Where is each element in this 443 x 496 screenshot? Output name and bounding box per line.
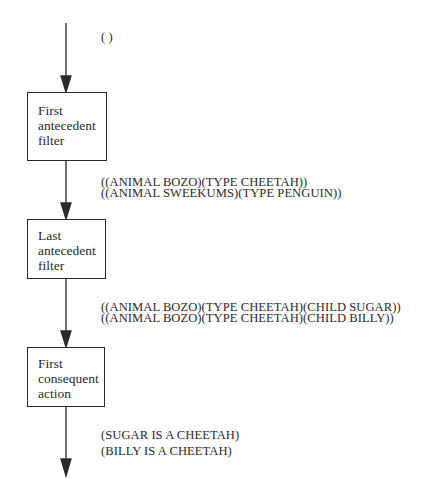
edge-label-output: (SUGAR IS A CHEETAH) (BILLY IS A CHEETAH… [101, 430, 239, 457]
node-label-line: filter [38, 258, 105, 273]
arrowhead-icon [61, 203, 71, 219]
node-label-line: consequent [38, 371, 104, 386]
node-label-line: antecedent [38, 243, 105, 258]
node-first-consequent-action: First consequent action [27, 347, 105, 407]
node-label-line: filter [38, 133, 106, 148]
edge-label-last-to-consequent: ((ANIMAL BOZO)(TYPE CHEETAH)(CHILD SUGAR… [101, 302, 401, 324]
edge-label-line: ((ANIMAL SWEEKUMS)(TYPE PENGUIN)) [101, 188, 341, 199]
node-first-antecedent-filter: First antecedent filter [27, 92, 107, 161]
node-last-antecedent-filter: Last antecedent filter [27, 219, 106, 279]
edge-label-line: ((ANIMAL BOZO)(TYPE CHEETAH)(CHILD BILLY… [101, 313, 401, 324]
node-label-line: action [38, 386, 104, 401]
input-label-line: ( ) [101, 32, 113, 43]
arrowhead-icon [61, 331, 71, 347]
node-label-line: antecedent [38, 118, 106, 133]
input-label: ( ) [101, 32, 113, 43]
arrowhead-icon [61, 76, 71, 92]
node-label-line: Last [38, 228, 105, 243]
edge-label-first-to-last: ((ANIMAL BOZO)(TYPE CHEETAH)) ((ANIMAL S… [101, 177, 341, 199]
flowchart-canvas: ( ) First antecedent filter ((ANIMAL BOZ… [0, 0, 443, 496]
node-label-line: First [38, 356, 104, 371]
node-label-line: First [38, 103, 106, 118]
arrowhead-icon [61, 459, 71, 476]
edge-label-line: (BILLY IS A CHEETAH) [101, 446, 239, 457]
